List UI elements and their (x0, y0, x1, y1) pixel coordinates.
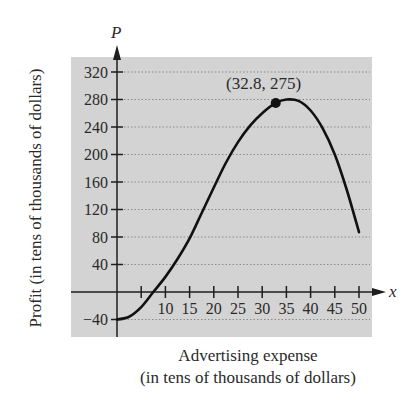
y-tick-label: −40 (83, 311, 108, 328)
x-tick-label: 30 (254, 300, 270, 317)
y-axis-arrow-icon (113, 45, 121, 60)
x-tick-label: 20 (206, 300, 222, 317)
x-tick-label: 40 (303, 300, 319, 317)
x-tick-label: 25 (230, 300, 246, 317)
profit-chart: −404080120160200240280320101520253035404… (0, 0, 414, 403)
y-tick-label: 240 (84, 119, 108, 136)
x-tick-label: 10 (157, 300, 173, 317)
y-tick-label: 200 (84, 146, 108, 163)
x-axis-label-line2: (in tens of thousands of dollars) (140, 368, 356, 387)
x-tick-label: 35 (278, 300, 294, 317)
y-tick-label: 80 (92, 229, 108, 246)
x-axis-variable: x (388, 282, 397, 301)
y-tick-label: 320 (84, 64, 108, 81)
x-axis-label-line1: Advertising expense (178, 346, 317, 365)
max-point-marker (271, 98, 281, 108)
x-tick-label: 50 (351, 300, 367, 317)
max-point-label: (32.8, 275) (226, 74, 301, 93)
x-tick-label: 15 (182, 300, 198, 317)
y-axis-label: Profit (in tens of thousands of dollars) (26, 69, 45, 328)
x-tick-label: 45 (327, 300, 343, 317)
y-tick-label: 40 (92, 256, 108, 273)
y-axis-variable: P (110, 23, 121, 42)
y-tick-label: 280 (84, 91, 108, 108)
x-axis-arrow-icon (372, 288, 386, 296)
y-tick-label: 120 (84, 201, 108, 218)
y-tick-label: 160 (84, 174, 108, 191)
